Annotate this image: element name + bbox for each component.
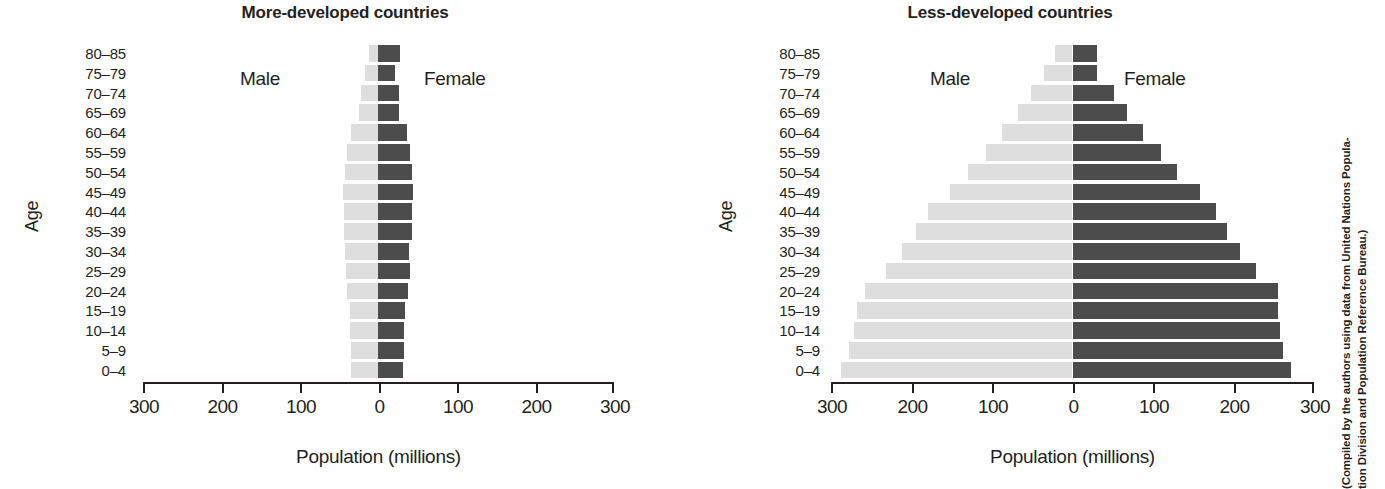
y-axis-tick-label: 70–74 [48,86,126,101]
bar-male [347,283,378,300]
y-axis-tick-label: 65–69 [48,105,126,120]
source-credit-line-1: (Compiled by the authors using data from… [1338,179,1354,489]
bar-female [378,104,399,121]
bar-row [143,322,613,342]
y-axis-tick-label: 0–4 [48,363,126,378]
bar-male [344,223,378,240]
y-axis-tick-label: 60–64 [48,125,126,140]
x-axis-tick [379,382,381,393]
y-axis-tick-label: 75–79 [48,66,126,81]
y-axis-title: Age [22,201,43,232]
y-axis-tick-labels: 80–8575–7970–7465–6960–6455–5950–5445–49… [48,45,126,382]
bar-row [143,362,613,382]
bar-male [351,124,378,141]
bar-male [345,164,378,181]
bar-row [143,342,613,362]
bar-female [378,342,404,359]
x-axis-tick-label: 300 [114,396,174,418]
x-axis-tick-label: 200 [193,396,253,418]
x-axis-tick [536,382,538,393]
bar-female [378,85,399,102]
bar-female [378,164,412,181]
x-axis-tick [222,382,224,393]
y-axis-tick-label: 30–34 [48,244,126,259]
series-label-male: Male [240,68,280,90]
panel-title: Less-developed countries [690,3,1330,23]
bar-male [345,243,378,260]
y-axis-tick-label: 20–24 [48,284,126,299]
bar-female [378,283,408,300]
bar-female [378,65,395,82]
bar-row [143,223,613,243]
y-axis-tick-label: 50–54 [48,165,126,180]
x-axis-tick [612,382,614,393]
bar-row [143,85,613,105]
bar-male [347,144,378,161]
y-axis-tick-label: 15–19 [48,303,126,318]
source-credit-line-2: tion Division and Population Reference B… [1354,179,1370,489]
bar-row [143,203,613,223]
y-axis-tick-label: 55–59 [48,145,126,160]
bar-male [350,302,378,319]
x-axis-tick [300,382,302,393]
bar-male [343,184,378,201]
bar-row [143,124,613,144]
x-axis-tick-label: 100 [428,396,488,418]
y-axis-tick-label: 10–14 [48,323,126,338]
bar-male [365,65,378,82]
panel-title: More-developed countries [0,3,690,23]
bar-row [143,144,613,164]
bar-male [344,203,378,220]
bar-female [378,362,403,379]
bar-male [351,342,378,359]
y-axis-tick-label: 35–39 [48,224,126,239]
bar-row [143,65,613,85]
y-axis-tick-label: 45–49 [48,185,126,200]
y-axis-tick-label: 40–44 [48,204,126,219]
bar-male [359,104,378,121]
bar-female [378,263,410,280]
x-axis-tick-label: 0 [350,396,410,418]
bar-male [346,263,378,280]
y-axis-tick-label: 25–29 [48,264,126,279]
bar-row [143,104,613,124]
bar-row [143,263,613,283]
x-axis-tick-label: 300 [585,396,645,418]
panel-less-developed: Less-developed countries [690,0,1330,489]
bar-male [361,85,378,102]
bar-female [378,243,409,260]
source-credit: (Compiled by the authors using data from… [1338,179,1370,489]
bar-male [369,45,378,62]
bar-female [378,223,412,240]
bar-rows [143,45,613,382]
plot-area [143,45,613,382]
bar-row [143,302,613,322]
y-axis-tick-label: 80–85 [48,46,126,61]
series-label-female: Female [424,68,486,90]
population-pyramid-figure: More-developed countries Age 80–8575–797… [0,0,1385,489]
bar-row [143,283,613,303]
x-axis-title: Population (millions) [143,446,614,468]
x-axis-tick [143,382,145,393]
bar-female [378,302,405,319]
bar-row [143,164,613,184]
bar-female [378,322,404,339]
bar-female [378,203,412,220]
x-axis-tick-label: 100 [271,396,331,418]
panel-more-developed: More-developed countries Age 80–8575–797… [0,0,690,489]
bar-female [378,184,413,201]
x-axis-tick-label: 200 [507,396,567,418]
bar-row [143,243,613,263]
bar-row [143,184,613,204]
bar-row [143,45,613,65]
bar-female [378,144,410,161]
bar-male [351,362,378,379]
bar-male [350,322,378,339]
bar-female [378,45,400,62]
y-axis-tick-label: 5–9 [48,343,126,358]
bar-female [378,124,407,141]
x-axis-tick [457,382,459,393]
